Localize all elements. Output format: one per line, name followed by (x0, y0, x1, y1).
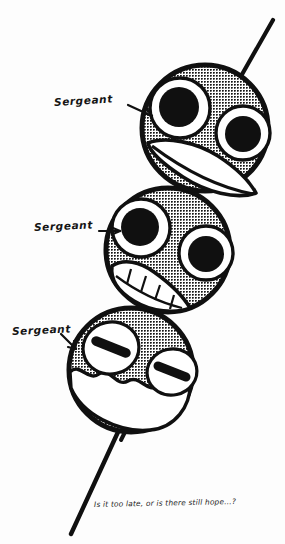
illustration-panel: Sergeant Sergeant Sergeant Is it too lat… (0, 0, 285, 544)
eye-right (179, 226, 233, 280)
label-sergeant-bottom: Sergeant (12, 322, 71, 337)
label-sergeant-middle: Sergeant (34, 218, 93, 233)
eye-left (150, 78, 210, 138)
head-middle (106, 188, 233, 312)
comic-artwork (0, 0, 285, 544)
eye-left (112, 199, 170, 257)
eye-right (216, 106, 270, 160)
